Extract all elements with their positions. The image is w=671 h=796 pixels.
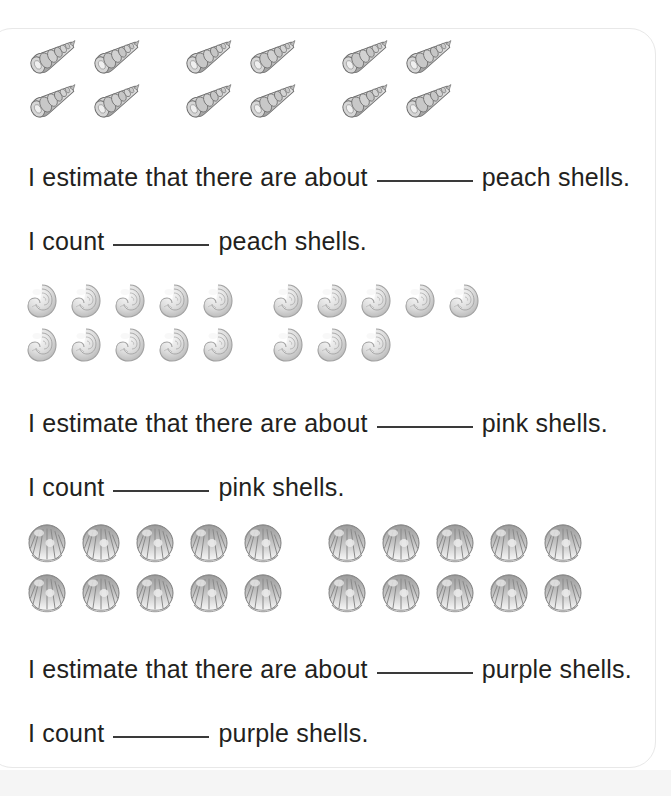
shell-snail-icon xyxy=(202,327,234,363)
shell-group-purple xyxy=(26,522,584,614)
shell-scallop-icon xyxy=(326,522,368,564)
estimate-suffix-purple: purple shells. xyxy=(482,655,632,684)
shell-row xyxy=(26,572,584,614)
shell-subgroup xyxy=(26,572,284,614)
shell-row xyxy=(26,327,480,363)
shell-spiral-icon xyxy=(338,84,394,118)
shell-snail-icon xyxy=(70,283,102,319)
estimate-prefix-purple: I estimate that there are about xyxy=(28,655,368,684)
shell-snail-icon xyxy=(360,283,392,319)
estimate-suffix-pink: pink shells. xyxy=(482,409,608,438)
count-blank-peach[interactable] xyxy=(113,244,209,246)
count-suffix-purple: purple shells. xyxy=(218,719,368,748)
shell-snail-icon xyxy=(158,283,190,319)
shell-scallop-icon xyxy=(188,522,230,564)
shell-scallop-icon xyxy=(542,572,584,614)
count-line-pink: I count pink shells. xyxy=(28,473,345,502)
shell-scallop-icon xyxy=(380,572,422,614)
shell-snail-icon xyxy=(26,283,58,319)
shell-spiral-icon xyxy=(246,84,302,118)
shell-scallop-icon xyxy=(80,572,122,614)
shell-row xyxy=(26,522,584,564)
shell-spiral-icon xyxy=(26,40,82,74)
shell-snail-icon xyxy=(26,327,58,363)
shell-subgroup xyxy=(326,572,584,614)
shell-spiral-icon xyxy=(246,40,302,74)
shell-subgroup xyxy=(26,283,234,319)
shell-snail-icon xyxy=(316,327,348,363)
worksheet-content: I estimate that there are about peach sh… xyxy=(0,0,671,796)
shell-group-peach xyxy=(26,40,458,118)
shell-row xyxy=(26,283,480,319)
shell-spiral-icon xyxy=(182,40,238,74)
shell-subgroup xyxy=(338,40,458,74)
shell-subgroup xyxy=(182,84,302,118)
shell-scallop-icon xyxy=(26,522,68,564)
estimate-blank-peach[interactable] xyxy=(377,180,473,182)
count-blank-pink[interactable] xyxy=(113,490,209,492)
shell-scallop-icon xyxy=(26,572,68,614)
count-prefix-peach: I count xyxy=(28,227,104,256)
estimate-prefix-peach: I estimate that there are about xyxy=(28,163,368,192)
worksheet-page: I estimate that there are about peach sh… xyxy=(0,0,671,796)
shell-scallop-icon xyxy=(488,522,530,564)
shell-snail-icon xyxy=(272,327,304,363)
shell-subgroup xyxy=(338,84,458,118)
shell-scallop-icon xyxy=(326,572,368,614)
shell-scallop-icon xyxy=(134,572,176,614)
estimate-blank-pink[interactable] xyxy=(377,426,473,428)
estimate-suffix-peach: peach shells. xyxy=(482,163,631,192)
count-suffix-peach: peach shells. xyxy=(218,227,367,256)
count-suffix-pink: pink shells. xyxy=(218,473,344,502)
shell-scallop-icon xyxy=(488,572,530,614)
shell-snail-icon xyxy=(114,327,146,363)
shell-subgroup xyxy=(182,40,302,74)
shell-subgroup xyxy=(26,40,146,74)
shell-snail-icon xyxy=(158,327,190,363)
shell-snail-icon xyxy=(316,283,348,319)
count-line-purple: I count purple shells. xyxy=(28,719,369,748)
count-line-peach: I count peach shells. xyxy=(28,227,367,256)
estimate-line-peach: I estimate that there are about peach sh… xyxy=(28,163,630,192)
shell-scallop-icon xyxy=(188,572,230,614)
shell-spiral-icon xyxy=(26,84,82,118)
shell-spiral-icon xyxy=(402,40,458,74)
shell-subgroup xyxy=(26,327,234,363)
estimate-line-pink: I estimate that there are about pink she… xyxy=(28,409,608,438)
shell-spiral-icon xyxy=(402,84,458,118)
shell-scallop-icon xyxy=(434,522,476,564)
shell-group-pink xyxy=(26,283,480,363)
shell-subgroup xyxy=(326,522,584,564)
shell-scallop-icon xyxy=(380,522,422,564)
shell-spiral-icon xyxy=(90,84,146,118)
estimate-blank-purple[interactable] xyxy=(377,672,473,674)
estimate-prefix-pink: I estimate that there are about xyxy=(28,409,368,438)
shell-subgroup xyxy=(272,327,392,363)
estimate-line-purple: I estimate that there are about purple s… xyxy=(28,655,632,684)
shell-scallop-icon xyxy=(134,522,176,564)
shell-spiral-icon xyxy=(182,84,238,118)
shell-spiral-icon xyxy=(338,40,394,74)
shell-snail-icon xyxy=(404,283,436,319)
shell-subgroup xyxy=(272,283,480,319)
shell-spiral-icon xyxy=(90,40,146,74)
shell-snail-icon xyxy=(114,283,146,319)
shell-snail-icon xyxy=(360,327,392,363)
shell-snail-icon xyxy=(272,283,304,319)
shell-snail-icon xyxy=(70,327,102,363)
shell-scallop-icon xyxy=(242,522,284,564)
shell-scallop-icon xyxy=(542,522,584,564)
shell-snail-icon xyxy=(202,283,234,319)
count-blank-purple[interactable] xyxy=(113,736,209,738)
count-prefix-purple: I count xyxy=(28,719,104,748)
shell-row xyxy=(26,84,458,118)
shell-row xyxy=(26,40,458,74)
shell-scallop-icon xyxy=(80,522,122,564)
count-prefix-pink: I count xyxy=(28,473,104,502)
shell-scallop-icon xyxy=(434,572,476,614)
shell-subgroup xyxy=(26,84,146,118)
shell-subgroup xyxy=(26,522,284,564)
shell-snail-icon xyxy=(448,283,480,319)
shell-scallop-icon xyxy=(242,572,284,614)
